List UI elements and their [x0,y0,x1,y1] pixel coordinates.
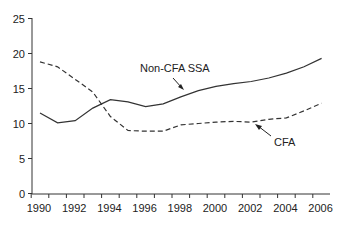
axes [32,18,330,194]
x-ticks: 199019921994199619982000200220042006 [27,194,333,214]
y-tick-label: 5 [19,153,25,165]
y-tick-label: 10 [13,118,25,130]
x-tick-label: 1998 [168,202,192,214]
x-tick-label: 2004 [273,202,297,214]
y-tick-label: 20 [13,48,25,60]
y-ticks: 0510152025 [13,13,32,200]
arrowhead-cfa [255,124,262,130]
line-chart: 0510152025 19901992199419961998200020022… [0,0,343,225]
x-tick-label: 1992 [62,202,86,214]
annotation-non-cfa-ssa: Non-CFA SSA [140,62,210,74]
y-tick-label: 0 [19,188,25,200]
y-tick-label: 25 [13,13,25,25]
annotations: Non-CFA SSA CFA [140,62,296,148]
x-tick-label: 1990 [27,202,51,214]
x-tick-label: 1996 [132,202,156,214]
x-tick-label: 2006 [308,202,332,214]
x-tick-label: 1994 [97,202,121,214]
x-tick-label: 2002 [238,202,262,214]
x-tick-label: 2000 [203,202,227,214]
annotation-cfa: CFA [274,136,296,148]
y-tick-label: 15 [13,83,25,95]
